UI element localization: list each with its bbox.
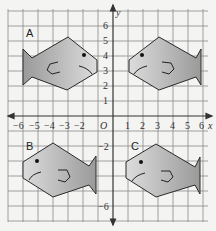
- fish-a: [23, 37, 97, 90]
- y-tick: 5: [103, 35, 108, 46]
- x-axis-arrow-left: [8, 114, 14, 119]
- fish-b: [23, 143, 96, 197]
- x-tick: 2: [140, 120, 145, 131]
- y-axis-arrow-up: [111, 5, 116, 11]
- y-tick: −6: [98, 201, 109, 212]
- x-tick: 1: [125, 120, 130, 131]
- y-tick: 1: [103, 95, 108, 106]
- fish-q1: [129, 37, 201, 90]
- x-axis-label: x: [207, 120, 213, 131]
- y-tick: 6: [103, 20, 108, 31]
- x-tick: 6: [199, 120, 204, 131]
- origin-label: O: [100, 120, 107, 131]
- y-tick: −2: [98, 141, 109, 152]
- fish-label-a: A: [26, 27, 34, 39]
- x-tick: −6: [13, 120, 24, 131]
- y-tick: 2: [103, 80, 108, 91]
- x-tick: −5: [29, 120, 40, 131]
- x-axis-arrow-right: [206, 114, 212, 119]
- fish-eye-icon: [82, 53, 86, 57]
- fish-label-c: C: [131, 140, 139, 152]
- fish-eye-icon: [140, 53, 144, 57]
- x-tick: −4: [44, 120, 55, 131]
- x-tick: −2: [74, 120, 85, 131]
- x-tick: −3: [59, 120, 70, 131]
- fish-eye-icon: [35, 159, 39, 163]
- axes: [8, 5, 212, 225]
- fish-eye-icon: [139, 160, 143, 164]
- x-tick: 3: [155, 120, 160, 131]
- y-axis-arrow-down: [111, 219, 116, 225]
- coordinate-plane: A B C y x O −6 −5 −4 −3 −2 1 2 3 4 5 6 6…: [0, 0, 216, 231]
- y-tick: 4: [103, 50, 108, 61]
- y-tick: 3: [103, 65, 108, 76]
- fish-label-b: B: [26, 140, 33, 152]
- y-axis-label: y: [115, 7, 121, 18]
- x-tick: 4: [170, 120, 175, 131]
- x-tick: 5: [185, 120, 190, 131]
